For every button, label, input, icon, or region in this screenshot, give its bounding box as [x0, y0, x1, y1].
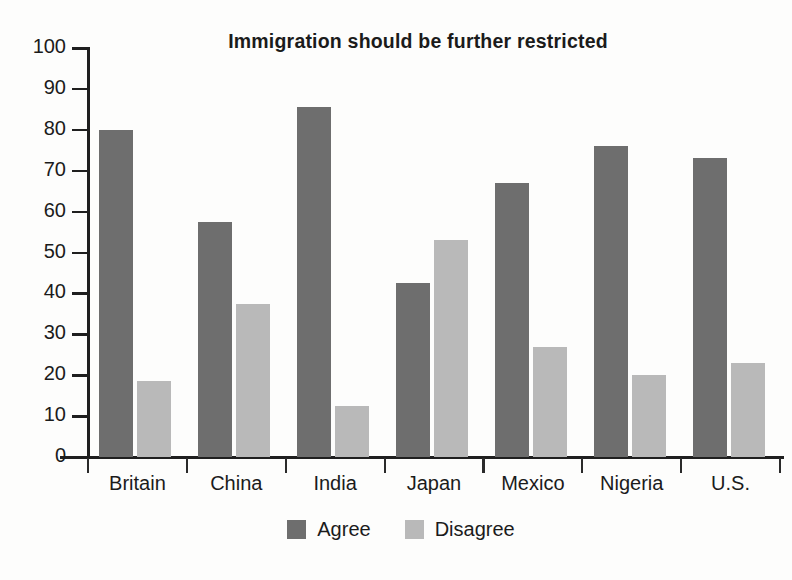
- y-tick-label: 20: [6, 362, 66, 385]
- y-tick-label: 60: [6, 199, 66, 222]
- legend-item-agree[interactable]: Agree: [287, 518, 370, 541]
- chart-legend: AgreeDisagree: [0, 518, 792, 541]
- x-label-nigeria: Nigeria: [582, 472, 681, 495]
- bar-japan-disagree: [434, 240, 468, 457]
- bar-china-disagree: [236, 304, 270, 457]
- x-label-india: India: [286, 472, 385, 495]
- x-label-us: U.S.: [681, 472, 780, 495]
- x-axis-separator: [482, 458, 484, 473]
- y-tick-label: 70: [6, 158, 66, 181]
- bar-mexico-agree: [495, 183, 529, 457]
- x-label-britain: Britain: [88, 472, 187, 495]
- y-tick-label: 40: [6, 280, 66, 303]
- y-tick-mark: [72, 456, 88, 459]
- bar-india-agree: [297, 107, 331, 457]
- x-axis-separator: [87, 458, 89, 473]
- x-axis-separator: [581, 458, 583, 473]
- y-tick-label: 50: [6, 240, 66, 263]
- y-tick-mark: [72, 47, 88, 50]
- bar-chart: Immigration should be further restricted…: [0, 0, 792, 580]
- y-tick-label: 10: [6, 403, 66, 426]
- bar-britain-disagree: [137, 381, 171, 457]
- y-tick-label: 0: [6, 444, 66, 467]
- y-tick-label: 90: [6, 76, 66, 99]
- bar-britain-agree: [99, 130, 133, 457]
- bar-us-agree: [693, 158, 727, 457]
- bar-china-agree: [198, 222, 232, 457]
- y-tick-mark: [72, 333, 88, 336]
- y-tick-mark: [72, 170, 88, 173]
- y-tick-mark: [72, 88, 88, 91]
- plot-area: [88, 48, 780, 457]
- y-tick-mark: [72, 415, 88, 418]
- y-tick-label: 100: [6, 35, 66, 58]
- x-label-mexico: Mexico: [483, 472, 582, 495]
- x-label-japan: Japan: [385, 472, 484, 495]
- bar-japan-agree: [396, 283, 430, 457]
- y-tick-label: 30: [6, 321, 66, 344]
- y-tick-mark: [72, 252, 88, 255]
- x-axis-separator: [186, 458, 188, 473]
- x-axis-separator: [384, 458, 386, 473]
- x-axis-separator: [779, 458, 781, 473]
- y-tick-mark: [72, 129, 88, 132]
- bar-us-disagree: [731, 363, 765, 457]
- x-axis-separator: [680, 458, 682, 473]
- legend-label: Disagree: [435, 518, 515, 541]
- y-tick-mark: [72, 292, 88, 295]
- y-tick-mark: [72, 211, 88, 214]
- bar-mexico-disagree: [533, 347, 567, 457]
- legend-swatch-icon: [405, 520, 424, 539]
- y-tick-mark: [72, 374, 88, 377]
- legend-label: Agree: [317, 518, 370, 541]
- y-tick-label: 80: [6, 117, 66, 140]
- x-axis-separator: [285, 458, 287, 473]
- legend-item-disagree[interactable]: Disagree: [405, 518, 515, 541]
- bar-india-disagree: [335, 406, 369, 457]
- x-label-china: China: [187, 472, 286, 495]
- bar-nigeria-disagree: [632, 375, 666, 457]
- bar-nigeria-agree: [594, 146, 628, 457]
- legend-swatch-icon: [287, 520, 306, 539]
